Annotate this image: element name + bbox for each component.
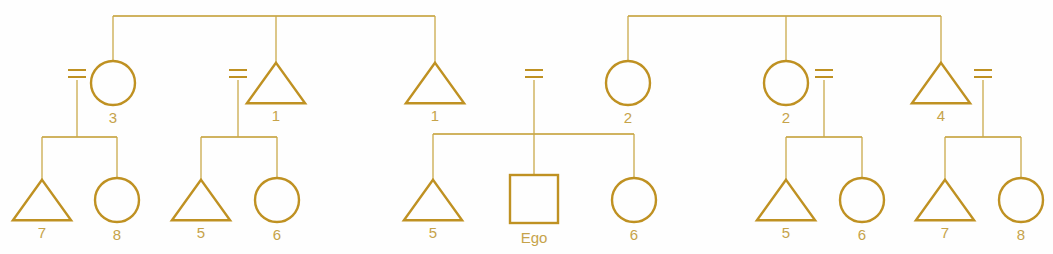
person-label-g1-triangle-1b: 1 xyxy=(431,107,439,124)
person-label-g2-circle-8b: 8 xyxy=(1017,226,1025,243)
person-g1-triangle-1a[interactable]: 1 xyxy=(247,16,305,124)
marriage-symbol-3[interactable] xyxy=(525,70,543,176)
marriage-symbols-layer xyxy=(68,70,992,176)
male-triangle-g2-triangle-7b[interactable] xyxy=(916,180,974,221)
female-circle-g1-circle-2a[interactable] xyxy=(606,61,650,105)
kinship-diagram-root: 311224 78565Ego65678 xyxy=(0,0,1053,254)
male-triangle-g1-triangle-1a[interactable] xyxy=(247,63,305,104)
person-label-g2-triangle-7a: 7 xyxy=(38,224,46,241)
person-label-g2-circle-6b: 6 xyxy=(630,226,638,243)
generation2-sibling-bars xyxy=(42,134,1021,137)
person-g2-triangle-5b[interactable]: 5 xyxy=(404,134,462,241)
person-g1-circle-3[interactable]: 3 xyxy=(91,16,135,126)
person-g1-circle-2a[interactable]: 2 xyxy=(606,16,650,126)
male-triangle-g2-triangle-7a[interactable] xyxy=(13,180,71,221)
person-label-g2-circle-8a: 8 xyxy=(113,226,121,243)
female-circle-g2-circle-6a[interactable] xyxy=(255,178,299,222)
person-g1-triangle-1b[interactable]: 1 xyxy=(406,16,464,124)
person-g1-circle-2b[interactable]: 2 xyxy=(764,16,808,126)
person-g2-circle-6b[interactable]: 6 xyxy=(612,134,656,243)
person-label-g1-triangle-4: 4 xyxy=(937,107,945,124)
person-label-g1-circle-3: 3 xyxy=(109,109,117,126)
female-circle-g2-circle-8a[interactable] xyxy=(95,178,139,222)
ego-square-g2-square-ego[interactable] xyxy=(510,175,558,223)
person-label-g1-circle-2a: 2 xyxy=(624,109,632,126)
male-triangle-g1-triangle-1b[interactable] xyxy=(406,63,464,104)
female-circle-g1-circle-3[interactable] xyxy=(91,61,135,105)
male-triangle-g1-triangle-4[interactable] xyxy=(912,63,970,104)
female-circle-g2-circle-8b[interactable] xyxy=(999,178,1043,222)
generation2-persons: 78565Ego65678 xyxy=(13,134,1043,246)
person-g1-triangle-4[interactable]: 4 xyxy=(912,16,970,124)
male-triangle-g2-triangle-5c[interactable] xyxy=(757,180,815,221)
person-g2-square-ego[interactable]: Ego xyxy=(510,175,558,246)
person-g2-triangle-5c[interactable]: 5 xyxy=(757,137,815,241)
person-g2-triangle-5a[interactable]: 5 xyxy=(172,137,230,241)
person-label-g2-triangle-5c: 5 xyxy=(782,224,790,241)
person-label-g1-circle-2b: 2 xyxy=(782,109,790,126)
person-label-g2-circle-6c: 6 xyxy=(858,226,866,243)
person-label-g2-square-ego: Ego xyxy=(521,229,548,246)
marriage-symbol-1[interactable] xyxy=(68,70,86,137)
marriage-symbol-5[interactable] xyxy=(974,70,992,137)
person-label-g2-triangle-5a: 5 xyxy=(197,224,205,241)
person-g2-circle-6c[interactable]: 6 xyxy=(840,137,884,243)
male-triangle-g2-triangle-5b[interactable] xyxy=(404,180,462,221)
female-circle-g2-circle-6c[interactable] xyxy=(840,178,884,222)
person-g2-circle-6a[interactable]: 6 xyxy=(255,137,299,243)
person-label-g2-triangle-5b: 5 xyxy=(429,224,437,241)
person-g2-circle-8b[interactable]: 8 xyxy=(999,137,1043,243)
female-circle-g2-circle-6b[interactable] xyxy=(612,178,656,222)
female-circle-g1-circle-2b[interactable] xyxy=(764,61,808,105)
male-triangle-g2-triangle-5a[interactable] xyxy=(172,180,230,221)
marriage-symbol-2[interactable] xyxy=(229,70,247,137)
marriage-symbol-4[interactable] xyxy=(815,70,833,137)
kinship-diagram-canvas: 311224 78565Ego65678 xyxy=(0,0,1053,254)
person-g2-circle-8a[interactable]: 8 xyxy=(95,137,139,243)
person-label-g2-triangle-7b: 7 xyxy=(941,224,949,241)
person-label-g1-triangle-1a: 1 xyxy=(272,107,280,124)
person-g2-triangle-7a[interactable]: 7 xyxy=(13,137,71,241)
person-g2-triangle-7b[interactable]: 7 xyxy=(916,137,974,241)
person-label-g2-circle-6a: 6 xyxy=(273,226,281,243)
